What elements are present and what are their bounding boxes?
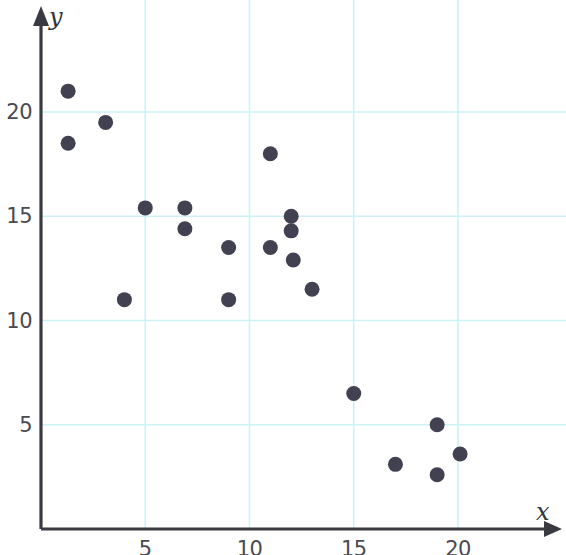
data-point <box>221 240 236 255</box>
x-axis-label: x <box>536 500 550 524</box>
data-point <box>177 221 192 236</box>
data-point <box>98 115 113 130</box>
y-tick-label: 10 <box>6 310 32 331</box>
x-tick-label: 10 <box>237 539 263 555</box>
data-point <box>305 282 320 297</box>
data-point <box>453 446 468 461</box>
data-point <box>284 209 299 224</box>
y-tick-label: 5 <box>19 414 32 435</box>
data-point <box>430 417 445 432</box>
x-tick-label: 20 <box>445 539 471 555</box>
axis-lines <box>33 6 562 537</box>
data-point <box>177 200 192 215</box>
data-point <box>263 146 278 161</box>
scatter-plot-figure: 51015205101520 x y <box>0 0 566 555</box>
plot-canvas <box>0 0 566 555</box>
data-point <box>117 292 132 307</box>
y-tick-label: 20 <box>6 102 32 123</box>
data-point <box>61 84 76 99</box>
data-point <box>388 457 403 472</box>
data-point <box>138 200 153 215</box>
y-tick-label: 15 <box>6 206 32 227</box>
y-axis-label: y <box>49 5 63 29</box>
data-point <box>221 292 236 307</box>
data-point <box>430 467 445 482</box>
data-point <box>284 223 299 238</box>
grid-lines <box>41 0 566 529</box>
data-point <box>346 386 361 401</box>
data-points <box>61 84 468 483</box>
data-point <box>286 253 301 268</box>
data-point <box>61 136 76 151</box>
data-point <box>263 240 278 255</box>
x-tick-label: 5 <box>139 539 152 555</box>
x-tick-label: 15 <box>341 539 367 555</box>
y-axis-arrow-icon <box>33 6 49 26</box>
